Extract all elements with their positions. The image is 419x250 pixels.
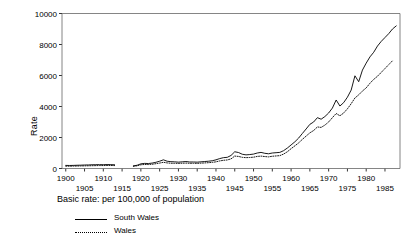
legend-item-south-wales: South Wales (75, 211, 397, 224)
svg-text:1930: 1930 (170, 174, 188, 183)
svg-text:1980: 1980 (357, 174, 375, 183)
svg-text:1910: 1910 (94, 174, 112, 183)
data-series-group (66, 26, 396, 166)
svg-text:1940: 1940 (207, 174, 225, 183)
legend-label-wales: Wales (114, 226, 136, 235)
svg-text:1900: 1900 (57, 174, 75, 183)
series-line-wales (133, 61, 392, 167)
svg-text:1945: 1945 (226, 184, 244, 193)
x-axis-ticks: 1900190519101915192019251930193519401945… (57, 169, 395, 193)
chart-caption-block: Basic rate: per 100,000 of population So… (57, 193, 397, 237)
chart-figure: 0200040006000800010000 19001905191019151… (0, 0, 419, 250)
svg-text:1950: 1950 (245, 174, 263, 183)
svg-text:10000: 10000 (35, 10, 58, 19)
svg-text:1925: 1925 (151, 184, 169, 193)
svg-text:0: 0 (53, 165, 58, 174)
plot-frame (62, 14, 400, 169)
svg-text:1915: 1915 (113, 184, 131, 193)
svg-text:1920: 1920 (132, 174, 150, 183)
svg-text:1985: 1985 (376, 184, 394, 193)
legend-label-south-wales: South Wales (114, 213, 159, 222)
svg-text:1935: 1935 (188, 184, 206, 193)
series-line-south-wales (133, 26, 396, 166)
svg-text:8000: 8000 (39, 41, 57, 50)
svg-text:1955: 1955 (263, 184, 281, 193)
legend-swatch-solid-icon (75, 213, 107, 222)
svg-text:1905: 1905 (76, 184, 94, 193)
svg-text:1960: 1960 (282, 174, 300, 183)
svg-text:1965: 1965 (301, 184, 319, 193)
legend-swatch-dotted-icon (75, 226, 107, 235)
y-axis-title: Rate (26, 96, 42, 156)
legend-item-wales: Wales (75, 224, 397, 237)
chart-caption: Basic rate: per 100,000 of population (57, 193, 397, 205)
svg-text:1970: 1970 (320, 174, 338, 183)
svg-text:6000: 6000 (39, 72, 57, 81)
svg-text:1975: 1975 (339, 184, 357, 193)
